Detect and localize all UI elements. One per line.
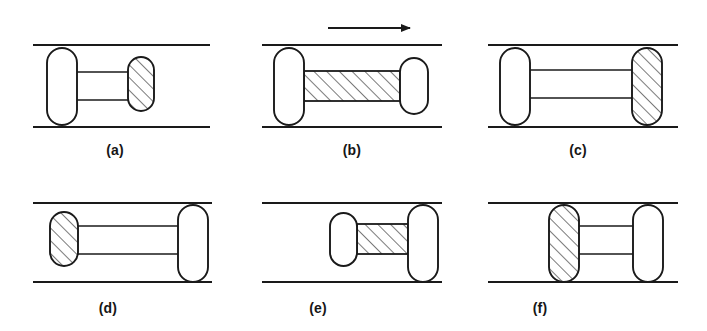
panel-c-left-lobe-outline: [500, 48, 530, 125]
panel-label-d: (d): [78, 300, 138, 316]
panel-d-left-lobe-hatch-fill: [50, 212, 78, 266]
panel-b-left-lobe-outline: [274, 48, 304, 125]
panel-a-right-lobe-hatch-fill: [128, 57, 154, 111]
panel-c-right-lobe-hatch-fill: [632, 48, 662, 125]
panel-label-e: (e): [288, 300, 348, 316]
panel-b-right-lobe-outline: [400, 58, 428, 114]
panel-c: [488, 45, 678, 127]
panel-d-right-lobe-outline: [178, 205, 208, 282]
panel-d: [33, 203, 212, 282]
panel-e: [262, 203, 442, 282]
panel-label-a: (a): [85, 142, 145, 158]
panel-b-connector-hatch-fill: [304, 71, 400, 101]
panel-label-f: (f): [510, 300, 570, 316]
panel-e-left-lobe-outline: [330, 213, 357, 266]
panel-b: [262, 28, 442, 127]
panel-e-connector-hatch-fill: [357, 224, 408, 254]
panel-a: [33, 45, 210, 127]
panel-label-c: (c): [548, 142, 608, 158]
panel-f: [488, 203, 678, 282]
panel-f-left-lobe-hatch-fill: [549, 205, 579, 282]
panel-f-right-lobe-outline: [633, 205, 663, 282]
panel-a-left-lobe-outline: [47, 48, 77, 125]
panel-e-right-lobe-outline: [408, 205, 438, 282]
panel-label-b: (b): [322, 142, 382, 158]
six-panel-channel-diagram: [0, 0, 707, 331]
figure-panel-grid: (a)(b)(c)(d)(e)(f): [0, 0, 707, 331]
